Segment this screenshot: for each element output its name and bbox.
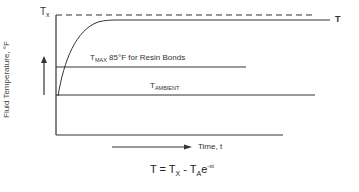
time-arrow-icon	[184, 145, 192, 150]
tx-label-sub: x	[46, 11, 50, 18]
up-arrow-icon	[41, 56, 47, 63]
tmax-label-sub: MAX	[95, 57, 107, 63]
formula: T = TX - TAe-xt	[150, 163, 214, 177]
y-axis-label: Fluid Temperature, °F	[2, 41, 11, 118]
tx-label: Tx	[40, 6, 50, 18]
tmax-label-desc: 85°F for Resin Bonds	[107, 53, 185, 62]
formula-lhs: T = T	[150, 163, 176, 175]
x-axis-label: Time, t	[198, 142, 222, 151]
tmax-label: TMAX 85°F for Resin Bonds	[90, 53, 185, 63]
formula-exponent: -xt	[207, 163, 214, 169]
t-curve-label: T	[335, 14, 341, 24]
tambient-label: TAMBIENT	[150, 81, 179, 91]
tambient-label-sub: AMBIENT	[155, 85, 179, 91]
formula-mid: - T	[180, 163, 196, 175]
